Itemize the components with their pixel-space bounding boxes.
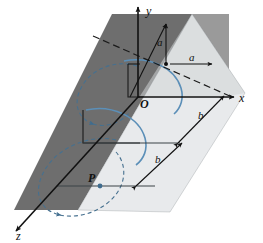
axis-label-y: y [145, 4, 152, 18]
axis-label-x: x [238, 91, 245, 105]
axis-label-z: z [15, 229, 21, 243]
dimension-label-b-lower: b [155, 153, 161, 165]
point-p-marker [98, 184, 103, 189]
dimension-a-corner-mark [164, 62, 168, 66]
dimension-label-b-upper: b [198, 109, 204, 121]
physics-figure-3d-magnetic-field: y x z O P a a b b [0, 0, 263, 243]
dimension-label-a-vertical: a [157, 36, 163, 48]
figure-canvas: y x z O P a a b b [0, 0, 263, 243]
dimension-label-a-horizontal: a [189, 51, 195, 63]
point-p-label: P [88, 171, 96, 185]
origin-label: O [140, 97, 149, 111]
